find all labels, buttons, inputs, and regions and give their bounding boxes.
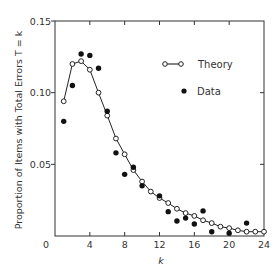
theory-point	[114, 136, 119, 141]
theory-point	[87, 67, 92, 72]
x-tick-label: 20	[223, 239, 235, 250]
theory-point	[262, 229, 267, 234]
data-point	[70, 83, 75, 88]
y-tick-label: 0.10	[30, 87, 51, 98]
theory-point	[209, 221, 214, 226]
plot-frame	[55, 21, 264, 236]
legend-theory-open-circle-icon	[163, 62, 168, 67]
data-point	[87, 53, 92, 58]
x-tick-label: 12	[153, 239, 165, 250]
chart: 048121620240.050.100.15 Proportion of It…	[0, 0, 279, 274]
y-tick-label: 0.15	[30, 16, 51, 27]
y-tick-label: 0.05	[30, 159, 51, 170]
legend-data-label: Data	[197, 86, 221, 97]
data-point	[226, 230, 231, 235]
theory-point	[192, 214, 197, 219]
theory-series	[61, 59, 266, 234]
legend-theory-label: Theory	[197, 59, 233, 70]
data-point	[78, 51, 83, 56]
data-point	[96, 66, 101, 71]
data-point	[209, 229, 214, 234]
x-tick-label: 16	[188, 239, 200, 250]
theory-line	[64, 61, 264, 232]
theory-point	[175, 206, 180, 211]
data-point	[174, 218, 179, 223]
y-axis-label: Proportion of Items with Total Errors T …	[13, 30, 24, 229]
theory-point	[70, 62, 75, 67]
legend-data-filled-circle-icon	[181, 88, 186, 93]
theory-point	[244, 229, 249, 234]
legend-theory-open-circle-icon	[179, 62, 184, 67]
data-point	[139, 183, 144, 188]
data-point	[113, 150, 118, 155]
data-point	[244, 220, 249, 225]
data-series	[61, 51, 249, 236]
data-point	[122, 172, 127, 177]
theory-point	[122, 152, 127, 157]
x-tick-label: 0	[43, 239, 49, 250]
data-point	[157, 193, 162, 198]
theory-point	[218, 224, 223, 229]
data-point	[200, 208, 205, 213]
data-point	[105, 109, 110, 114]
theory-point	[96, 90, 101, 95]
theory-point	[235, 228, 240, 233]
data-point	[183, 215, 188, 220]
x-tick-label: 24	[258, 239, 270, 250]
data-point	[61, 119, 66, 124]
axis-tick-labels: 048121620240.050.100.15	[30, 16, 270, 251]
theory-point	[201, 218, 206, 223]
theory-point	[183, 211, 188, 216]
theory-point	[166, 201, 171, 206]
data-point	[131, 165, 136, 170]
data-point	[166, 209, 171, 214]
theory-point	[61, 99, 66, 104]
theory-point	[227, 226, 232, 231]
theory-point	[253, 229, 258, 234]
theory-point	[148, 189, 153, 194]
plot-border	[55, 21, 264, 236]
theory-point	[79, 59, 84, 64]
data-point	[192, 221, 197, 226]
x-tick-label: 4	[87, 239, 93, 250]
x-tick-label: 8	[122, 239, 128, 250]
x-axis-label: k	[158, 255, 164, 266]
legend: Theory Data	[163, 59, 233, 97]
